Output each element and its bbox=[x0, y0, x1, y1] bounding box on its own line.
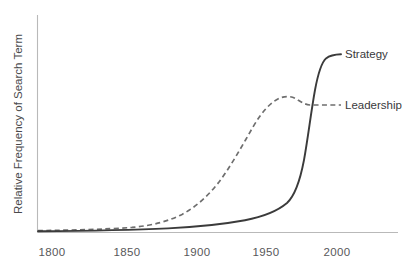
series-line-strategy bbox=[38, 54, 341, 231]
chart-container: Strategy Leadership 1800 1850 1900 1950 … bbox=[0, 0, 418, 271]
series-label-leadership: Leadership bbox=[345, 99, 402, 111]
chart-plot-area: Strategy Leadership 1800 1850 1900 1950 … bbox=[0, 0, 418, 271]
y-axis-title: Relative Frequency of Search Term bbox=[12, 34, 24, 214]
x-tick-label-1950: 1950 bbox=[253, 246, 280, 258]
x-tick-label-2000: 2000 bbox=[324, 246, 351, 258]
series-label-strategy: Strategy bbox=[345, 48, 388, 60]
x-tick-label-1800: 1800 bbox=[39, 246, 66, 258]
x-tick-label-1900: 1900 bbox=[184, 246, 211, 258]
series-line-leadership bbox=[38, 97, 341, 231]
x-tick-label-1850: 1850 bbox=[114, 246, 141, 258]
